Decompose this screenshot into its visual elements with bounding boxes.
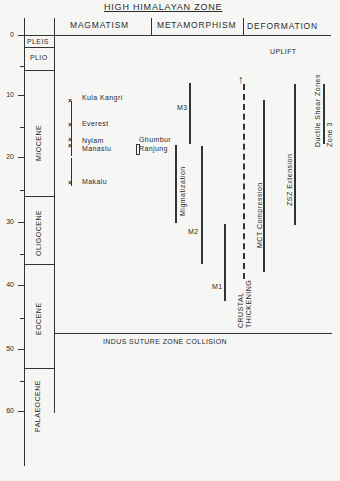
header-divider-1 [151,18,152,35]
zsz-extension-label: ZSZ Extension [286,154,293,206]
uplift-label: UPLIFT [270,48,297,55]
column-header-magmatism: MAGMATISM [70,20,129,30]
column-header-metamorphism: METAMORPHISM [157,20,236,30]
tick-60 [18,411,25,412]
epoch-boundary-oligocene-eocene [24,264,54,265]
epoch-label-palaeocene: PALAEOCENE [34,380,41,432]
zero-line [18,35,331,36]
mct-compression-label: MCT Compression [256,182,263,248]
granite-marker-makalu: × [68,179,72,186]
crustal-thickening-dashed-line [243,84,245,279]
tick-5 [20,66,24,67]
m1-label: M1 [212,283,223,290]
tick-35 [20,254,24,255]
zone-3-label: Zone 3 [326,122,333,147]
epoch-label-oligocene: OLIGOCENE [35,210,42,256]
m3-label: M3 [177,104,188,111]
ductile-shear-zones-bar [323,84,325,144]
header-divider-2 [243,18,244,35]
ductile-shear-zones-label: Ductile Shear Zones [314,74,321,147]
tick-40 [18,285,25,286]
tick-25 [20,190,24,191]
tick-55 [20,381,24,382]
m2-label: M2 [188,228,199,235]
granite-marker-everest: × [68,121,72,128]
uplift-arrow-icon: ↑ [238,73,244,85]
epoch-label-pleis: PLEIS [27,38,49,45]
diagram-title: HIGH HIMALAYAN ZONE [104,2,222,12]
m3-bar [189,83,191,144]
tick-label-0: 0 [0,31,14,38]
epoch-label-eocene: EOCENE [35,302,42,335]
column-header-deformation: DEFORMATION [247,21,318,31]
thickening-label: THICKENING [245,280,252,328]
diagram: HIGH HIMALAYAN ZONE MAGMATISM METAMORPHI… [0,0,340,481]
collision-line [54,333,332,334]
mct-compression-bar [263,100,265,272]
tick-10 [18,95,25,96]
granite-label-manaslu: Manaslu [82,145,111,152]
ghumbur-label: Ghumbur [139,136,171,143]
epoch-boundary-pleis-plio [24,47,54,48]
epoch-boundary-eocene-palaeocene [24,368,54,369]
migmatization-bar [175,145,177,223]
tick-0 [18,35,25,36]
tick-label-30: 30 [0,218,14,225]
tick-45 [20,318,24,319]
tick-15 [20,127,24,128]
granite-label-nylam: Nylam [82,137,104,144]
tick-label-60: 60 [0,407,14,414]
epoch-column-right [54,18,55,413]
epoch-label-plio: PLIO [30,54,48,61]
y-axis-line [24,18,25,466]
epoch-label-miocene: MIOCENE [35,125,42,161]
tick-50 [18,349,25,350]
m1-bar [224,224,226,301]
migmatization-label: Migmatization [179,166,186,216]
tick-label-20: 20 [0,153,14,160]
tick-label-10: 10 [0,91,14,98]
epoch-boundary-miocene-oligocene [24,196,54,197]
crustal-label: CRUSTAL [237,292,244,328]
granite-label-everest: Everest [82,120,109,127]
collision-label: INDUS SUTURE ZONE COLLISION [103,338,227,345]
m2-bar [201,146,203,264]
tick-label-40: 40 [0,281,14,288]
zsz-extension-bar [294,84,296,225]
granite-marker-manaslu: × [68,142,72,149]
granite-label-makalu: Makalu [82,178,107,185]
epoch-boundary-plio-miocene [24,70,54,71]
tick-30 [18,222,25,223]
granite-label-kula-kangri: Kula Kangri [82,94,123,101]
ranjung-label: Ranjung [139,145,168,152]
granite-marker-kula-kangri: × [68,97,72,104]
tick-label-50: 50 [0,345,14,352]
tick-20 [18,157,25,158]
